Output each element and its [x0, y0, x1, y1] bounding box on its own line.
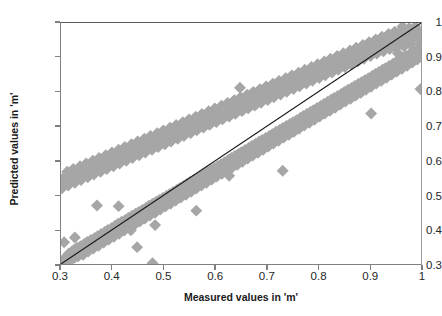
y-tick-label: 0.4 [396, 224, 442, 236]
scatter-point [149, 219, 161, 231]
scatter-point [365, 108, 377, 120]
trendline [61, 23, 421, 264]
y-tick-mark [55, 91, 60, 92]
scatter-point [91, 200, 103, 212]
y-tick-label: 0.6 [396, 155, 442, 167]
y-tick-label: 0.9 [396, 51, 442, 63]
y-tick-mark [55, 21, 60, 22]
plot-svg [61, 23, 421, 264]
x-tick-label: 0.4 [92, 270, 132, 282]
trendline-layer [61, 23, 421, 264]
y-tick-mark [55, 125, 60, 126]
scatter-point [131, 241, 143, 253]
y-tick-label: 0.7 [396, 120, 442, 132]
x-tick-label: 0.5 [143, 270, 183, 282]
scatter-point [147, 257, 159, 264]
y-axis-title: Predicted values in 'm' [8, 69, 20, 229]
x-tick-label: 1 [402, 270, 442, 282]
x-tick-label: 0.8 [299, 270, 339, 282]
y-tick-label: 1 [396, 16, 442, 28]
scatter-point [61, 236, 70, 248]
y-tick-mark [55, 56, 60, 57]
scatter-chart: 10.90.80.70.60.50.40.3 0.30.40.50.60.70.… [0, 0, 442, 316]
x-tick-label: 0.9 [350, 270, 390, 282]
y-tick-label: 0.8 [396, 85, 442, 97]
x-tick-label: 0.7 [247, 270, 287, 282]
y-tick-label: 0.5 [396, 190, 442, 202]
scatter-point [277, 165, 289, 177]
y-tick-mark [55, 195, 60, 196]
x-tick-label: 0.3 [40, 270, 80, 282]
y-tick-mark [55, 160, 60, 161]
y-tick-mark [55, 230, 60, 231]
x-tick-label: 0.6 [195, 270, 235, 282]
plot-area [60, 22, 422, 265]
scatter-point [190, 205, 202, 217]
scatter-point [113, 200, 125, 212]
x-axis-title: Measured values in 'm' [60, 291, 422, 303]
